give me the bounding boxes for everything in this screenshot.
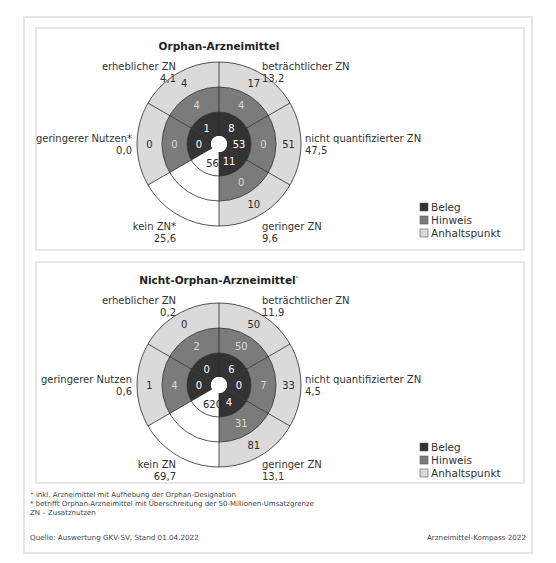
value-anhaltspunkt: 81 xyxy=(247,440,260,451)
value-hinweis: 50 xyxy=(235,341,248,352)
brand-note: Arzneimittel-Kompass 2022 xyxy=(427,533,526,542)
category-share: 11,9 xyxy=(262,307,284,318)
legend-swatch-hinweis xyxy=(420,456,428,464)
category-label: geringerer Nutzen xyxy=(41,374,132,385)
category-share: 25,6 xyxy=(154,233,176,244)
category-share: 69,7 xyxy=(154,471,176,482)
chart-title: Nicht-Orphan-Arzneimittel⁺ xyxy=(139,274,299,286)
value-hinweis: 4 xyxy=(171,380,177,391)
category-share: 13,1 xyxy=(262,471,284,482)
value-hinweis: 7 xyxy=(260,380,266,391)
category-label: kein ZN* xyxy=(133,221,176,232)
legend-swatch-anhaltspunkt xyxy=(420,229,428,237)
legend-swatch-beleg xyxy=(420,203,428,211)
category-label: beträchtlicher ZN xyxy=(262,61,350,72)
value-beleg: 4 xyxy=(226,397,232,408)
center-hole xyxy=(211,136,227,152)
category-share: 0,6 xyxy=(116,386,132,397)
footnote-asterisk: * betrifft Orphan-Arzneimittel mit Übers… xyxy=(30,500,314,509)
value-beleg: 0 xyxy=(203,364,209,375)
value-beleg: 0 xyxy=(196,380,202,391)
chart-title: Orphan-Arzneimittel xyxy=(159,40,280,52)
value-anhaltspunkt: 50 xyxy=(247,319,260,330)
legend-swatch-beleg xyxy=(420,443,428,451)
legend: BelegHinweisAnhaltspunkt xyxy=(420,441,501,479)
value-beleg: 8 xyxy=(228,123,234,134)
value-beleg: 6 xyxy=(228,364,234,375)
category-label: erheblicher ZN xyxy=(102,295,176,306)
category-share: 9,6 xyxy=(262,233,278,244)
legend-swatch-hinweis xyxy=(420,216,428,224)
value-hinweis: 0 xyxy=(260,139,266,150)
category-label: nicht quantifizierter ZN xyxy=(305,133,421,144)
category-label: geringer ZN xyxy=(262,459,322,470)
value-anhaltspunkt: 17 xyxy=(247,78,260,89)
value-beleg: 53 xyxy=(233,139,246,150)
chart-orphan: Orphan-Arzneimittel8417beträchtlicher ZN… xyxy=(36,40,501,244)
legend-label-beleg: Beleg xyxy=(431,201,461,213)
value-anhaltspunkt: 0 xyxy=(181,319,187,330)
legend-label-anhaltspunkt: Anhaltspunkt xyxy=(431,467,501,479)
value-anhaltspunkt: 10 xyxy=(247,199,260,210)
footnote-plus: ⁺ inkl. Arzneimittel mit Aufhebung der O… xyxy=(30,491,314,500)
category-share: 47,5 xyxy=(305,145,327,156)
value-hinweis: 4 xyxy=(194,100,200,111)
category-share: 4,1 xyxy=(160,73,176,84)
value-beleg: 1 xyxy=(203,123,209,134)
category-label: erheblicher ZN xyxy=(102,61,176,72)
value-beleg: 11 xyxy=(223,156,236,167)
legend-label-hinweis: Hinweis xyxy=(431,454,472,466)
category-share: 4,5 xyxy=(305,386,321,397)
category-label: kein ZN xyxy=(138,459,176,470)
category-label: nicht quantifizierter ZN xyxy=(305,374,421,385)
legend-label-beleg: Beleg xyxy=(431,441,461,453)
value-hinweis: 0 xyxy=(238,177,244,188)
source-note: Quelle: Auswertung GKV-SV, Stand 01.04.2… xyxy=(30,533,199,542)
value-hinweis: 4 xyxy=(238,100,244,111)
category-label: geringerer Nutzen* xyxy=(36,133,132,144)
footnote-zn: ZN – Zusatznutzen xyxy=(30,509,314,518)
value-anhaltspunkt: 33 xyxy=(282,380,295,391)
legend: BelegHinweisAnhaltspunkt xyxy=(420,201,501,239)
value-anhaltspunkt: 0 xyxy=(146,139,152,150)
category-share: 0,0 xyxy=(116,145,132,156)
sunburst-charts: Orphan-Arzneimittel8417beträchtlicher ZN… xyxy=(0,0,556,563)
center-hole xyxy=(211,377,227,393)
value-beleg: 0 xyxy=(196,139,202,150)
category-label: geringer ZN xyxy=(262,221,322,232)
legend-swatch-anhaltspunkt xyxy=(420,469,428,477)
value-anhaltspunkt: 4 xyxy=(181,78,187,89)
value-hinweis: 31 xyxy=(235,418,248,429)
legend-label-hinweis: Hinweis xyxy=(431,214,472,226)
legend-label-anhaltspunkt: Anhaltspunkt xyxy=(431,227,501,239)
value-beleg: 0 xyxy=(236,380,242,391)
chart-nicht-orphan: Nicht-Orphan-Arzneimittel⁺65050beträchtl… xyxy=(41,274,501,482)
value-anhaltspunkt: 51 xyxy=(282,139,295,150)
footnotes: ⁺ inkl. Arzneimittel mit Aufhebung der O… xyxy=(30,491,314,518)
value-kein: 56 xyxy=(206,158,219,169)
value-hinweis: 2 xyxy=(194,341,200,352)
category-label: beträchtlicher ZN xyxy=(262,295,350,306)
value-anhaltspunkt: 1 xyxy=(146,380,152,391)
value-hinweis: 0 xyxy=(171,139,177,150)
